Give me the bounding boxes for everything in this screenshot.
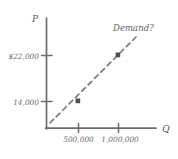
data-point-marker-1000000-22000: [116, 53, 121, 58]
demand-curve-dashed-line: [50, 37, 136, 123]
demand-annotation-label: Demand?: [112, 23, 154, 33]
x-axis-label: Q: [162, 124, 170, 134]
y-tick-label-high: $22,000: [8, 52, 39, 61]
chart-canvas: P Q $22,000 14,000 500,000 1,000,000 Dem…: [0, 0, 178, 159]
x-tick-label-right: 1,000,000: [101, 135, 139, 144]
chart-figure: P Q $22,000 14,000 500,000 1,000,000 Dem…: [0, 0, 178, 159]
y-axis-label: P: [31, 14, 39, 24]
data-point-marker-500000-14000: [76, 99, 81, 104]
y-tick-label-low: 14,000: [13, 98, 39, 107]
x-tick-label-left: 500,000: [63, 135, 94, 144]
